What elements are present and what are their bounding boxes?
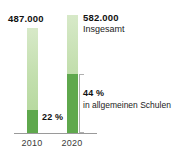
x-tick-2010: 2010 — [12, 138, 52, 148]
bar-chart: 487.000 582.000 Insgesamt 22 % 44 % in a… — [0, 0, 174, 153]
percent-label-2020-group: 44 % in allgemeinen Schulen — [83, 88, 171, 111]
bar-2020-share-segment — [67, 74, 78, 133]
bar-2010 — [27, 28, 38, 133]
percent-label-2010: 22 % — [42, 112, 63, 122]
value-label-2010: 487.000 — [8, 13, 44, 24]
bar-2020 — [67, 15, 78, 133]
percent-label-2020: 44 % — [83, 88, 171, 99]
total-caption: Insgesamt — [83, 24, 125, 35]
x-axis-line — [14, 133, 97, 134]
bar-2010-share-segment — [27, 110, 38, 133]
value-label-2020-group: 582.000 Insgesamt — [83, 12, 125, 35]
share-caption: in allgemeinen Schulen — [83, 100, 171, 111]
x-tick-2020: 2020 — [52, 138, 92, 148]
value-label-2020: 582.000 — [83, 12, 125, 23]
